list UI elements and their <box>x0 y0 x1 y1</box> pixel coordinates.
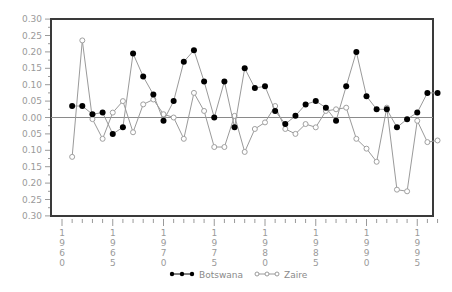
x-tick-label: 9 <box>110 238 116 248</box>
data-point <box>272 108 278 114</box>
x-tick-label: 9 <box>364 248 370 258</box>
data-point <box>252 126 257 131</box>
x-tick-label: 9 <box>414 238 420 248</box>
y-tick-label: 0.20 <box>22 47 42 57</box>
data-point <box>414 110 420 116</box>
data-point <box>90 117 95 122</box>
x-tick-label: 1 <box>110 228 116 238</box>
y-tick-label: 0.05 <box>22 96 42 106</box>
data-point <box>222 145 227 150</box>
x-tick-label: 1 <box>262 228 268 238</box>
data-point <box>405 189 410 194</box>
data-point <box>364 146 369 151</box>
x-tick-label: 9 <box>313 238 319 248</box>
data-point <box>70 154 75 159</box>
data-point <box>334 107 339 112</box>
y-tick-label: 0.20 <box>22 178 42 188</box>
data-point <box>181 136 186 141</box>
data-point <box>120 99 125 104</box>
data-point <box>282 121 288 127</box>
x-tick-label: 8 <box>313 248 319 258</box>
data-point <box>344 105 349 110</box>
series-line <box>72 50 437 134</box>
x-tick-label: 5 <box>211 258 217 268</box>
data-point <box>435 90 441 96</box>
legend-item-botswana: Botswana <box>170 270 243 280</box>
data-point <box>191 90 196 95</box>
y-tick-label: 0.05 <box>22 129 42 139</box>
x-tick-label: 5 <box>313 258 319 268</box>
y-tick-label: 0.30 <box>22 14 42 24</box>
data-point <box>141 102 146 107</box>
data-point <box>404 116 410 122</box>
data-point <box>181 59 187 65</box>
y-tick-label: 0.10 <box>22 145 42 155</box>
data-point <box>140 74 146 80</box>
series-botswana <box>69 47 440 137</box>
line-chart: 0.300.250.200.150.100.050.000.050.100.15… <box>0 0 452 292</box>
filled-circle-icon <box>190 272 194 276</box>
x-tick-label: 0 <box>262 258 268 268</box>
x-tick-label: 1 <box>414 228 420 238</box>
data-point <box>202 108 207 113</box>
data-point <box>313 125 318 130</box>
data-point <box>424 90 430 96</box>
x-tick-label: 1 <box>211 228 217 238</box>
legend-item-zaire: Zaire <box>255 270 308 280</box>
x-tick-label: 1 <box>313 228 319 238</box>
open-circle-icon <box>265 272 269 276</box>
data-point <box>130 51 136 57</box>
x-tick-label: 7 <box>211 248 217 258</box>
x-tick-label: 9 <box>161 238 167 248</box>
y-tick-label: 0.15 <box>22 162 42 172</box>
data-point <box>394 187 399 192</box>
data-point <box>100 136 105 141</box>
open-circle-icon <box>275 272 279 276</box>
data-point <box>354 136 359 141</box>
data-point <box>313 98 319 104</box>
legend-label-zaire: Zaire <box>284 270 308 280</box>
data-point <box>80 38 85 43</box>
data-point <box>262 83 268 89</box>
x-tick-label: 6 <box>110 248 116 258</box>
data-point <box>323 105 329 111</box>
series-zaire <box>70 38 440 194</box>
data-point <box>110 110 115 115</box>
data-point <box>211 115 217 121</box>
data-point <box>100 110 106 116</box>
filled-circle-icon <box>180 272 184 276</box>
data-point <box>221 78 227 84</box>
x-tick-label: 9 <box>262 238 268 248</box>
series-line <box>72 40 437 191</box>
x-tick-label: 0 <box>161 258 167 268</box>
data-point <box>69 103 75 109</box>
x-tick-label: 9 <box>364 238 370 248</box>
data-point <box>120 124 126 130</box>
x-tick-label: 7 <box>161 248 167 258</box>
legend-label-botswana: Botswana <box>199 270 243 280</box>
data-point <box>263 120 268 125</box>
x-tick-label: 9 <box>59 238 65 248</box>
data-point <box>242 65 248 71</box>
data-point <box>374 159 379 164</box>
legend: Botswana Zaire <box>170 270 308 280</box>
data-point <box>79 103 85 109</box>
x-tick-label: 9 <box>414 248 420 258</box>
y-axis: 0.300.250.200.150.100.050.000.050.100.15… <box>22 14 51 221</box>
data-point <box>201 78 207 84</box>
data-point <box>303 122 308 127</box>
x-tick-label: 9 <box>211 238 217 248</box>
data-point <box>293 131 298 136</box>
data-point <box>364 93 370 99</box>
y-tick-label: 0.25 <box>22 195 42 205</box>
data-point <box>171 98 177 104</box>
x-tick-label: 5 <box>414 258 420 268</box>
data-point <box>425 140 430 145</box>
data-point <box>394 124 400 130</box>
data-point <box>110 131 116 137</box>
data-point <box>384 106 390 112</box>
data-point <box>161 118 167 124</box>
x-tick-label: 8 <box>262 248 268 258</box>
data-point <box>343 83 349 89</box>
x-tick-label: 0 <box>364 258 370 268</box>
